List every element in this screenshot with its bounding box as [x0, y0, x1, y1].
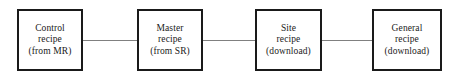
recipe-flow-diagram: Control recipe (from MR) Master recipe (…	[0, 0, 459, 80]
node-site-recipe-line-1: Site	[281, 23, 296, 35]
node-master-recipe-line-3: (from SR)	[150, 46, 190, 58]
node-control-recipe-line-2: recipe	[38, 34, 62, 46]
node-site-recipe-line-3: (download)	[266, 46, 311, 58]
node-master-recipe-line-1: Master	[157, 23, 184, 35]
node-general-recipe[interactable]: General recipe (download)	[372, 9, 442, 71]
node-general-recipe-line-1: General	[392, 23, 423, 35]
node-site-recipe-line-2: recipe	[277, 34, 301, 46]
node-control-recipe[interactable]: Control recipe (from MR)	[17, 9, 83, 71]
node-control-recipe-line-1: Control	[35, 23, 65, 35]
connector-master-to-site	[203, 40, 255, 41]
node-master-recipe-line-2: recipe	[158, 34, 182, 46]
connector-control-to-master	[83, 40, 137, 41]
node-control-recipe-line-3: (from MR)	[29, 46, 72, 58]
node-site-recipe[interactable]: Site recipe (download)	[255, 9, 322, 71]
node-master-recipe[interactable]: Master recipe (from SR)	[137, 9, 203, 71]
node-general-recipe-line-3: (download)	[385, 46, 430, 58]
connector-site-to-general	[322, 40, 372, 41]
node-general-recipe-line-2: recipe	[395, 34, 419, 46]
